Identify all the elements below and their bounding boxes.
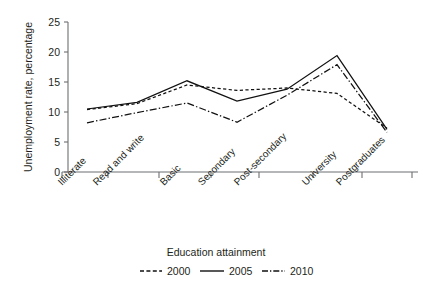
y-tick-label-5: 5: [54, 136, 60, 148]
y-axis-ticks: 25 20 15 10 5 0: [48, 16, 68, 178]
x-category-label-postgraduates: Postgraduates: [334, 134, 387, 187]
chart-figure: Unemployment rate, percentage 25 20 15 1…: [0, 0, 432, 286]
x-axis-category-labels: Illiterate Read and write Basic Secondar…: [56, 131, 387, 188]
series-line-2010: [87, 65, 387, 133]
series-line-2005: [87, 56, 387, 130]
legend-item-2005[interactable]: 2005: [200, 265, 253, 277]
legend-label-2000: 2000: [167, 265, 191, 277]
series-group: [87, 56, 387, 133]
y-tick-label-20: 20: [48, 46, 60, 58]
x-category-label-post-secondary: Post-secondary: [232, 131, 289, 188]
y-tick-label-25: 25: [48, 16, 60, 28]
chart-legend: 2000 2005 2010: [140, 265, 314, 277]
legend-item-2000[interactable]: 2000: [140, 265, 191, 277]
x-category-label-illiterate: Illiterate: [56, 155, 89, 188]
y-tick-label-10: 10: [48, 106, 60, 118]
x-category-label-read-and-write: Read and write: [91, 132, 147, 188]
x-category-label-secondary: Secondary: [196, 146, 238, 188]
x-axis-title: Education attainment: [167, 246, 266, 258]
legend-item-2010[interactable]: 2010: [262, 265, 314, 277]
unemployment-line-chart: Unemployment rate, percentage 25 20 15 1…: [0, 0, 432, 286]
legend-label-2010: 2010: [290, 265, 314, 277]
x-category-label-basic: Basic: [158, 162, 183, 187]
y-tick-label-15: 15: [48, 76, 60, 88]
x-category-label-university: University: [300, 149, 339, 188]
y-axis-title: Unemployment rate, percentage: [22, 22, 34, 172]
legend-label-2005: 2005: [229, 265, 253, 277]
